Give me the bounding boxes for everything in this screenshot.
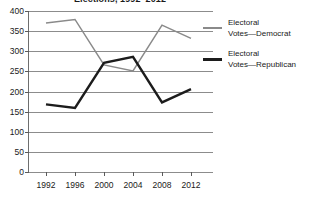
y-axis-tick-label: 300: [0, 47, 24, 56]
series-line-republican: [46, 57, 191, 108]
legend-item-republican: Electoral Votes—Republican: [203, 49, 322, 71]
legend-label-republican-line2: Votes—Republican: [228, 60, 322, 71]
x-axis-tick-mark: [162, 172, 163, 176]
legend-label-democrat: Electoral Votes—Democrat: [228, 18, 322, 39]
gridline: [28, 172, 213, 173]
x-axis-tick-mark: [46, 172, 47, 176]
y-axis-tick-label: 250: [0, 67, 24, 76]
series-lines-group: [28, 11, 213, 172]
line-swatch-icon-republican: [203, 58, 222, 61]
x-axis-tick-label: 2012: [174, 181, 208, 190]
y-axis-tick-label: 200: [0, 88, 24, 97]
line-chart: Elections, 1992–2012 4003503002502001501…: [0, 0, 322, 200]
legend-label-democrat-line1: Electoral: [228, 18, 259, 27]
legend-item-democrat: Electoral Votes—Democrat: [203, 18, 322, 40]
y-axis-tick-label: 150: [0, 108, 24, 117]
chart-legend: Electoral Votes—Democrat Electoral Votes…: [203, 18, 322, 80]
y-axis-tick-label: 350: [0, 27, 24, 36]
x-axis-tick-mark: [104, 172, 105, 176]
legend-label-republican: Electoral Votes—Republican: [228, 49, 322, 70]
y-axis-tick-label: 50: [0, 148, 24, 157]
x-axis-tick-mark: [191, 172, 192, 176]
x-axis-tick-mark: [75, 172, 76, 176]
line-swatch-icon-democrat: [203, 27, 222, 29]
legend-label-democrat-line2: Votes—Democrat: [228, 29, 322, 40]
y-axis-tick-label: 0: [0, 168, 24, 177]
legend-label-republican-line1: Electoral: [228, 49, 259, 58]
chart-title: Elections, 1992–2012: [30, 0, 210, 4]
y-axis-tick-label: 400: [0, 7, 24, 16]
x-axis-tick-mark: [133, 172, 134, 176]
plot-area: [28, 11, 213, 172]
series-line-democrat: [46, 19, 191, 71]
y-axis-tick-mark: [25, 172, 29, 173]
y-axis-tick-label: 100: [0, 128, 24, 137]
